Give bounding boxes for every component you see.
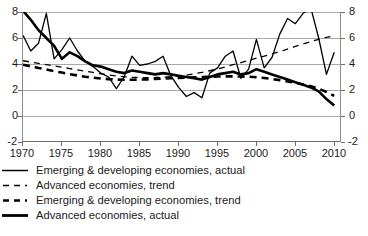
x-tick-mark xyxy=(100,142,101,146)
legend-swatch-line xyxy=(0,208,30,223)
figure-container: 8 6 4 2 0 -2 8 6 4 2 0 -2 xyxy=(0,0,368,236)
legend-swatch-line xyxy=(0,178,30,193)
legend-item: Emerging & developing economies, actual xyxy=(0,163,368,178)
series-lines xyxy=(23,12,342,142)
x-tick-label: 1975 xyxy=(41,148,81,159)
legend-item: Advanced economies, trend xyxy=(0,178,368,193)
x-tick-label: 1970 xyxy=(2,148,42,159)
y-tick-label-left: -2 xyxy=(0,136,17,147)
y-tick-label-left: 4 xyxy=(0,58,18,69)
x-tick-label: 2000 xyxy=(236,148,276,159)
x-tick-label: 1980 xyxy=(80,148,120,159)
x-tick-mark xyxy=(217,142,218,146)
y-tick-label-right: 8 xyxy=(349,6,367,17)
x-tick-mark xyxy=(139,142,140,146)
y-tick-label-left: 6 xyxy=(0,32,18,43)
x-tick-label: 1995 xyxy=(197,148,237,159)
chart-legend: Emerging & developing economies, actual … xyxy=(0,163,368,223)
y-tick-mark xyxy=(341,142,345,143)
y-tick-label-right: 0 xyxy=(349,110,367,121)
x-tick-label: 2010 xyxy=(314,148,354,159)
legend-item: Emerging & developing economies, trend xyxy=(0,193,368,208)
legend-label: Emerging & developing economies, actual xyxy=(36,163,368,178)
plot-area xyxy=(22,12,341,142)
x-tick-mark xyxy=(61,142,62,146)
legend-swatch-line xyxy=(0,193,30,208)
caption-cutoff xyxy=(4,230,304,236)
series-line xyxy=(23,36,334,78)
y-tick-label-right: 6 xyxy=(349,32,367,43)
x-tick-mark xyxy=(22,142,23,146)
legend-label: Emerging & developing economies, trend xyxy=(36,193,368,208)
x-tick-label: 1990 xyxy=(158,148,198,159)
y-tick-label-right: -2 xyxy=(348,136,366,147)
y-tick-label-left: 2 xyxy=(0,84,18,95)
series-line xyxy=(23,12,334,98)
legend-label: Advanced economies, trend xyxy=(36,178,368,193)
x-tick-mark xyxy=(334,142,335,146)
x-tick-label: 2005 xyxy=(275,148,315,159)
y-tick-label-right: 4 xyxy=(349,58,367,69)
x-tick-label: 1985 xyxy=(119,148,159,159)
series-line xyxy=(23,12,334,106)
legend-item: Advanced economies, actual xyxy=(0,208,368,223)
x-tick-mark xyxy=(256,142,257,146)
y-tick-label-right: 2 xyxy=(349,84,367,95)
y-tick-label-left: 0 xyxy=(0,110,18,121)
legend-label: Advanced economies, actual xyxy=(36,208,368,223)
y-tick-label-left: 8 xyxy=(0,6,18,17)
legend-swatch-line xyxy=(0,163,30,178)
x-tick-mark xyxy=(295,142,296,146)
x-tick-mark xyxy=(178,142,179,146)
